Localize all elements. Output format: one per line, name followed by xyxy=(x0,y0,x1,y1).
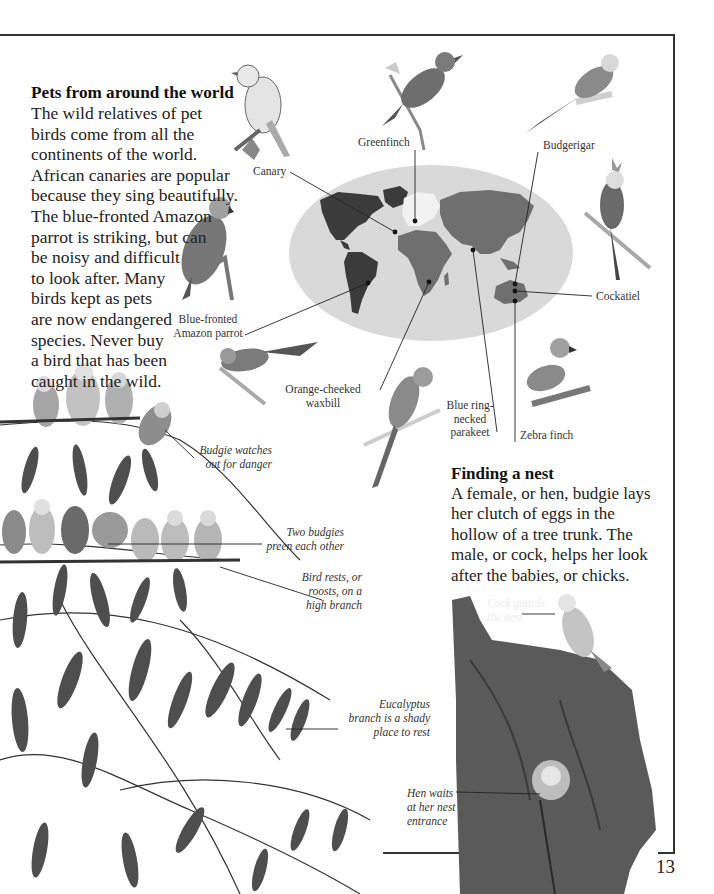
australia xyxy=(494,280,528,304)
nest-line: hollow of a tree trunk. The xyxy=(451,525,651,545)
nest-line: her clutch of eggs in the xyxy=(451,504,651,524)
madagascar xyxy=(444,272,449,286)
caption-line: preen each other xyxy=(254,539,344,553)
caption-line: the nest xyxy=(487,610,549,624)
caption-line: out for danger xyxy=(182,457,272,471)
nest-section: Finding a nest A female, or hen, budgie … xyxy=(451,464,651,586)
page-number: 13 xyxy=(656,856,675,878)
frame-top-border xyxy=(0,34,675,36)
nest-hole-hen xyxy=(532,760,570,800)
caption-cock-guards: Cock guards the nest xyxy=(487,596,549,624)
intro-line: parrot is striking, but can xyxy=(31,227,238,248)
intro-line: birds kept as pets xyxy=(31,288,238,309)
label-canary: Canary xyxy=(253,165,286,179)
intro-line: caught in the wild. xyxy=(31,371,238,392)
label-line: Amazon parrot xyxy=(170,327,246,341)
nest-line: A female, or hen, budgie lays xyxy=(451,484,651,504)
frame-bottom-rule xyxy=(383,852,469,854)
caption-line: Cock guards xyxy=(487,596,549,610)
intro-line: because they sing beautifully. xyxy=(31,185,238,206)
central-america xyxy=(340,240,350,250)
map-markers xyxy=(366,219,518,304)
label-line: Blue ring- xyxy=(442,399,498,413)
north-america xyxy=(320,192,384,240)
intro-line: continents of the world. xyxy=(31,144,238,165)
label-zebra-finch: Zebra finch xyxy=(520,429,573,443)
nest-body: A female, or hen, budgie lays her clutch… xyxy=(451,484,651,586)
caption-eucalyptus-branch: Eucalyptus branch is a shady place to re… xyxy=(330,697,430,739)
intro-body: The wild relatives of pet birds come fro… xyxy=(31,103,238,391)
frame-right-border xyxy=(673,34,675,854)
label-line: Blue-fronted xyxy=(170,313,246,327)
caption-line: branch is a shady xyxy=(330,711,430,725)
indonesia xyxy=(500,258,520,270)
label-line: waxbill xyxy=(277,397,369,411)
label-line: Orange-cheeked xyxy=(277,383,369,397)
intro-line: African canaries are popular xyxy=(31,165,238,186)
greenland xyxy=(383,186,408,208)
nest-line: after the babies, or chicks. xyxy=(451,566,651,586)
canary-illustration xyxy=(231,65,290,160)
africa xyxy=(398,230,452,296)
caption-line: place to rest xyxy=(330,725,430,739)
label-line: parakeet xyxy=(442,426,498,440)
asia xyxy=(440,190,534,254)
map-ocean-ellipse xyxy=(289,165,573,341)
label-orange-cheeked-waxbill: Orange-cheeked waxbill xyxy=(277,383,369,410)
intro-line: be noisy and difficult xyxy=(31,247,238,268)
intro-line: The wild relatives of pet xyxy=(31,103,238,124)
intro-heading: Pets from around the world xyxy=(31,83,238,103)
caption-bird-roosts: Bird rests, or roosts, on a high branch xyxy=(292,570,362,612)
caption-line: Eucalyptus xyxy=(330,697,430,711)
intro-line: a bird that has been xyxy=(31,350,238,371)
label-ring-necked-parakeet: Blue ring- necked parakeet xyxy=(442,399,498,440)
tree-trunk-illustration xyxy=(452,594,656,894)
caption-line: Bird rests, or xyxy=(292,570,362,584)
intro-line: The blue-fronted Amazon xyxy=(31,206,238,227)
label-amazon-parrot: Blue-fronted Amazon parrot xyxy=(170,313,246,340)
intro-line: birds come from all the xyxy=(31,124,238,145)
caption-line: entrance xyxy=(407,814,467,828)
label-greenfinch: Greenfinch xyxy=(358,136,410,150)
nest-heading: Finding a nest xyxy=(451,464,651,484)
intro-section: Pets from around the world The wild rela… xyxy=(31,83,238,391)
label-budgerigar: Budgerigar xyxy=(543,139,595,153)
intro-line: to look after. Many xyxy=(31,268,238,289)
nest-line: male, or cock, helps her look xyxy=(451,545,651,565)
caption-budgie-watches: Budgie watches out for danger xyxy=(182,443,272,471)
south-america xyxy=(344,252,378,314)
caption-line: roosts, on a xyxy=(292,584,362,598)
europe xyxy=(402,192,440,226)
caption-line: Two budgies xyxy=(254,525,344,539)
budgerigar-illustration xyxy=(526,54,619,133)
caption-hen-waits: Hen waits at her nest entrance xyxy=(407,786,467,828)
caption-two-budgies-preen: Two budgies preen each other xyxy=(254,525,344,553)
parakeet-illustration xyxy=(364,367,440,488)
frame-bottom-border xyxy=(658,852,675,854)
cockatiel-illustration xyxy=(585,158,650,280)
label-line: necked xyxy=(442,413,498,427)
zebra-finch-illustration xyxy=(523,338,590,404)
caption-line: high branch xyxy=(292,598,362,612)
caption-line: Budgie watches xyxy=(182,443,272,457)
caption-line: at her nest xyxy=(407,800,467,814)
budgie-group-middle xyxy=(0,499,240,562)
caption-line: Hen waits xyxy=(407,786,467,800)
label-cockatiel: Cockatiel xyxy=(596,290,640,304)
